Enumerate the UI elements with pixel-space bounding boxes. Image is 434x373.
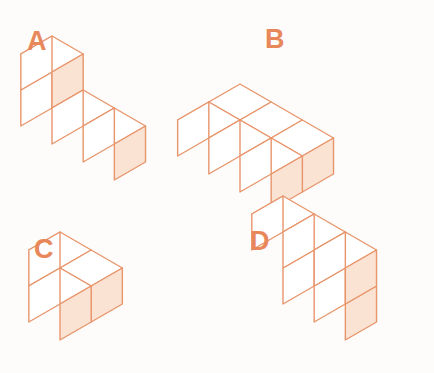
figure-canvas: ABCD [0,0,434,373]
figure-label-a: A [27,26,47,56]
figure-label-c: C [34,234,54,264]
figure-b-group: B [178,24,334,210]
figure-d-group: D [250,196,377,340]
figure-c-group: C [29,232,123,340]
isometric-cubes-illustration: ABCD [0,0,434,373]
figure-label-d: D [250,226,270,256]
cube-face-left [178,102,209,156]
figure-label-b: B [265,24,285,54]
figure-a-group: A [21,26,146,180]
